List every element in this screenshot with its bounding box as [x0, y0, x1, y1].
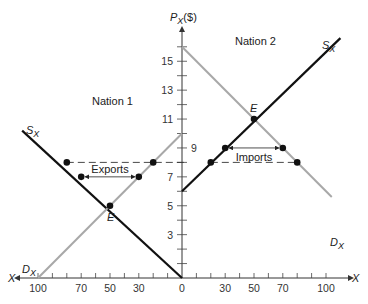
nation2-label: Nation 2 [235, 35, 276, 47]
axes [14, 26, 354, 281]
x-tick-label-right: 50 [248, 282, 260, 294]
nation1-supply-curve [22, 131, 182, 278]
trade-equilibrium-chart: 35711131591007050300305070100PX($)Nation… [0, 0, 368, 304]
x-tick-label-left: 30 [133, 282, 145, 294]
imports-label: Imports [236, 151, 273, 163]
point-marker [107, 202, 114, 209]
x-tick-label-left: 70 [75, 282, 87, 294]
y-tick-label: 9 [191, 142, 197, 154]
y-tick-label: 11 [162, 113, 173, 125]
point-marker [294, 159, 301, 166]
y-tick-label: 15 [161, 55, 173, 67]
supply-demand-curves [22, 38, 340, 278]
nation2-supply-label: SX [322, 39, 336, 54]
y-axis-label: PX($) [170, 11, 197, 26]
nation1-label: Nation 1 [92, 95, 133, 107]
y-tick-label: 7 [167, 171, 173, 183]
y-tick-label: 13 [161, 84, 173, 96]
x-tick-label-right: 30 [219, 282, 231, 294]
point-marker [150, 159, 157, 166]
x-tick-label-right: 70 [277, 282, 289, 294]
nation2-equilibrium-label: E [250, 102, 258, 114]
nation1-equilibrium-label: E [107, 211, 115, 223]
y-axis-arrow [179, 26, 185, 32]
x-tick-label-left: 50 [104, 282, 116, 294]
y-tick-label: 5 [167, 200, 173, 212]
nation1-demand-label: DX [22, 263, 37, 278]
x-axis-label-left: X [7, 272, 16, 284]
y-tick-label: 3 [167, 229, 173, 241]
x-axis-label-right: X [351, 272, 360, 284]
point-marker [78, 174, 85, 181]
point-marker [64, 159, 71, 166]
point-marker [136, 174, 143, 181]
x-tick-label-origin: 0 [179, 282, 185, 294]
exports-label: Exports [91, 163, 129, 175]
point-marker [222, 145, 229, 152]
x-tick-label-left: 100 [29, 282, 47, 294]
point-marker [280, 145, 287, 152]
x-tick-label-right: 100 [317, 282, 335, 294]
nation2-demand-label: DX [330, 236, 345, 251]
point-marker [208, 159, 215, 166]
chart-labels: 35711131591007050300305070100PX($)Nation… [7, 11, 360, 294]
nation2-supply-curve [182, 38, 340, 191]
point-marker [251, 116, 258, 123]
